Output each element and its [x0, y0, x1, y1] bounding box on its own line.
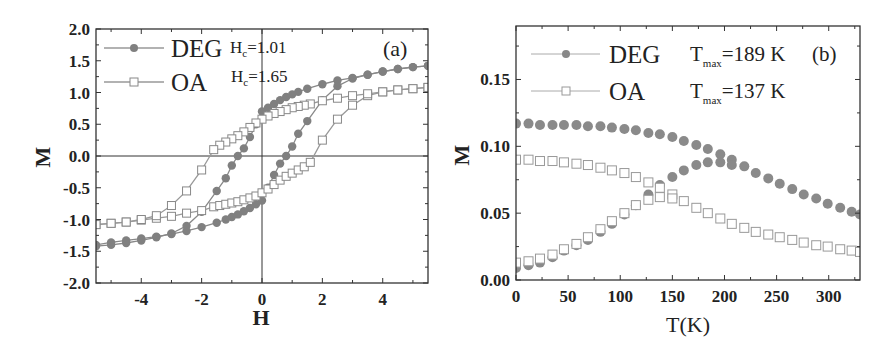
data-point: [183, 187, 191, 195]
data-point: [740, 223, 749, 232]
y-tick-label: -0.5: [63, 179, 90, 198]
data-point: [655, 193, 664, 202]
data-point: [751, 168, 761, 178]
data-point: [228, 161, 236, 169]
data-point: [107, 241, 115, 249]
data-point: [198, 166, 206, 174]
data-point: [644, 178, 653, 187]
data-point: [607, 123, 617, 133]
y-tick-label: -1.0: [63, 211, 90, 230]
data-point: [152, 233, 160, 241]
data-point: [716, 214, 725, 223]
data-point: [318, 80, 326, 88]
data-point: [349, 101, 357, 109]
data-point: [764, 230, 773, 239]
data-point: [583, 121, 593, 131]
data-point: [363, 71, 371, 79]
tmax-annotation-deg: Tmax=189 K: [690, 42, 786, 69]
data-point: [333, 76, 341, 84]
data-point: [607, 166, 616, 175]
data-point: [122, 218, 130, 226]
data-point: [394, 86, 402, 94]
data-point: [836, 245, 845, 254]
y-tick-label: 0.00: [480, 271, 510, 290]
y-tick-label: 1.0: [69, 84, 90, 103]
data-point: [583, 161, 592, 170]
data-point: [349, 92, 357, 100]
data-point: [631, 173, 640, 182]
data-point: [559, 245, 568, 254]
x-tick-label: 2: [318, 290, 327, 309]
data-point: [379, 88, 387, 96]
data-point: [559, 158, 568, 167]
data-point: [524, 119, 534, 129]
data-point: [727, 160, 737, 170]
y-axis-title: M: [30, 146, 55, 167]
data-point: [691, 140, 701, 150]
x-tick-label: -2: [195, 290, 209, 309]
data-point: [333, 94, 341, 102]
data-point: [210, 146, 218, 154]
data-point: [548, 250, 557, 259]
data-point: [122, 239, 130, 247]
legend-label-oa: OA: [609, 78, 645, 105]
data-point: [788, 235, 797, 244]
data-point: [137, 216, 145, 224]
data-point: [348, 74, 356, 82]
data-point: [691, 160, 701, 170]
legend: DEG Tmax=189 K (b) OA Tmax=137 K: [531, 41, 837, 106]
data-point: [679, 165, 689, 175]
data-point: [547, 120, 557, 130]
tmax-annotation-oa: Tmax=137 K: [690, 79, 786, 106]
x-tick-label: 50: [560, 287, 577, 306]
data-point: [379, 67, 387, 75]
data-point: [167, 229, 175, 237]
data-point: [763, 173, 773, 183]
data-point: [596, 163, 605, 172]
temperature-series: [511, 119, 865, 273]
data-point: [306, 158, 314, 166]
data-point: [524, 257, 533, 266]
y-axis-title: M: [449, 144, 474, 165]
data-point: [409, 85, 417, 93]
data-point: [799, 189, 809, 199]
x-tick-label: 0: [512, 287, 521, 306]
data-point: [775, 233, 784, 242]
data-point: [318, 97, 326, 105]
data-point: [715, 157, 725, 167]
data-point: [679, 136, 689, 146]
data-point: [276, 159, 284, 167]
figure: -4-20242.01.51.00.50.0-0.5-1.0-1.5-2.0 M…: [0, 0, 890, 358]
x-tick-label: 150: [660, 287, 686, 306]
data-point: [668, 194, 677, 203]
data-point: [583, 233, 592, 242]
data-point: [655, 129, 665, 139]
data-point: [303, 117, 311, 125]
axis-ticks: -4-20242.01.51.00.50.0-0.5-1.0-1.5-2.0: [63, 20, 428, 309]
data-point: [703, 157, 713, 167]
data-point: [559, 120, 569, 130]
hc-annotation-oa: Hc=1.65: [231, 67, 288, 88]
data-point: [620, 209, 629, 218]
data-point: [607, 217, 616, 226]
data-point: [787, 184, 797, 194]
data-point: [524, 155, 533, 164]
data-point: [643, 128, 653, 138]
y-tick-label: 2.0: [69, 20, 90, 39]
hc-annotation-deg: Hc=1.01: [230, 38, 287, 59]
data-point: [703, 144, 713, 154]
x-tick-label: 4: [378, 290, 387, 309]
x-tick-label: 300: [816, 287, 842, 306]
data-point: [847, 246, 856, 255]
legend-label-deg: DEG: [171, 35, 222, 62]
data-point: [823, 242, 832, 251]
data-point: [571, 120, 581, 130]
data-point: [595, 121, 605, 131]
data-point: [775, 179, 785, 189]
y-tick-label: 0.5: [69, 115, 90, 134]
data-point: [631, 125, 641, 135]
data-point: [294, 130, 302, 138]
data-point: [234, 152, 242, 160]
data-point: [152, 212, 160, 220]
hysteresis-chart: -4-20242.01.51.00.50.0-0.5-1.0-1.5-2.0 M…: [30, 20, 432, 330]
